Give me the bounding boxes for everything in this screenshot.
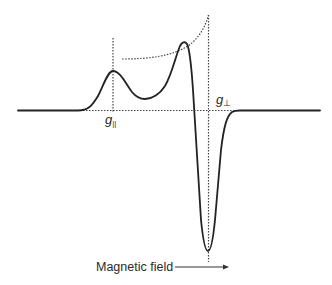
epr-spectrum-diagram: g|| g⊥ Magnetic field: [0, 0, 332, 285]
spectrum-curve: [18, 42, 320, 251]
x-axis-label: Magnetic field: [96, 260, 173, 274]
g-parallel-label: g||: [105, 112, 116, 128]
field-direction-arrow-icon: [223, 265, 229, 270]
g-perp-label: g⊥: [216, 92, 231, 108]
dotted-envelope-curve: [122, 15, 209, 59]
